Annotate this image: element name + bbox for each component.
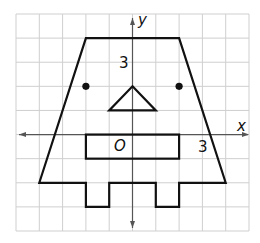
x-tick-label-3: 3 xyxy=(198,138,208,156)
right-eye-dot xyxy=(176,83,183,90)
y-tick-label-3: 3 xyxy=(119,54,129,72)
x-axis-arrow-left-icon xyxy=(19,132,26,137)
y-axis-arrow-up-icon xyxy=(130,18,135,25)
diagram-canvas: y x O 3 3 xyxy=(0,0,260,243)
coordinate-plane-figure: y x O 3 3 xyxy=(0,0,260,243)
left-eye-dot xyxy=(82,83,89,90)
x-axis-label: x xyxy=(236,117,246,135)
axes xyxy=(19,18,249,228)
y-axis-arrow-down-icon xyxy=(130,221,135,228)
y-axis-label: y xyxy=(137,11,148,29)
origin-label: O xyxy=(114,137,126,155)
